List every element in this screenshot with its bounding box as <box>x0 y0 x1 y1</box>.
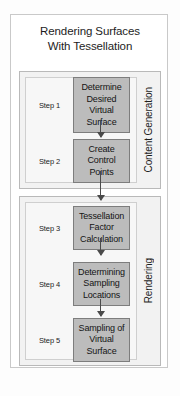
connector-arrow-step2-to-step3 <box>100 171 101 200</box>
step-4-text-line-3: Locations <box>76 290 127 302</box>
step-5-box[interactable]: Sampling of Virtual Surface <box>73 318 130 363</box>
step-4-box[interactable]: Determining Sampling Locations <box>73 262 130 307</box>
group-rendering-label: Rendering <box>139 201 157 361</box>
step-row-2: Step 2 Create Control Points <box>26 144 136 178</box>
step-3-label: Step 3 <box>26 224 73 233</box>
page-title: Rendering Surfaces With Tessellation <box>11 24 169 53</box>
step-2-box[interactable]: Create Control Points <box>73 139 130 184</box>
group-content-generation-label: Content Generation <box>139 76 157 184</box>
step-row-1: Step 1 Determine Desired Virtual Surface <box>26 83 136 127</box>
step-2-text-line-1: Create Control <box>76 144 127 167</box>
step-4-text-line-2: Sampling <box>76 278 127 290</box>
step-2-text-line-2: Points <box>76 167 127 179</box>
step-1-label: Step 1 <box>26 101 73 110</box>
step-1-text-line-3: Surface <box>76 117 127 129</box>
step-5-text-line-1: Sampling of <box>76 323 127 335</box>
step-4-text-line-1: Determining <box>76 267 127 279</box>
step-3-box[interactable]: Tessellation Factor Calculation <box>73 206 130 251</box>
step-row-4: Step 4 Determining Sampling Locations <box>26 262 136 306</box>
group-content-generation-inner-panel: Step 1 Determine Desired Virtual Surface… <box>25 77 137 183</box>
group-rendering-label-text: Rendering <box>143 258 154 303</box>
step-row-3: Step 3 Tessellation Factor Calculation <box>26 211 136 245</box>
group-rendering-inner-panel: Step 3 Tessellation Factor Calculation S… <box>25 202 137 360</box>
connector-arrow-step3-to-step4 <box>100 238 101 255</box>
diagram-canvas: Rendering Surfaces With Tessellation Ste… <box>0 0 180 396</box>
step-4-label: Step 4 <box>26 280 73 289</box>
step-row-5: Step 5 Sampling of Virtual Surface <box>26 323 136 357</box>
page-title-line-2: With Tessellation <box>11 39 169 54</box>
page-title-line-1: Rendering Surfaces <box>11 24 169 39</box>
step-5-text-line-2: Virtual Surface <box>76 334 127 357</box>
group-content-generation-label-text: Content Generation <box>143 87 154 172</box>
step-2-label: Step 2 <box>26 157 73 166</box>
step-3-text-line-1: Tessellation <box>76 211 127 223</box>
step-1-box[interactable]: Determine Desired Virtual Surface <box>73 77 130 133</box>
diagram-outer-frame: Rendering Surfaces With Tessellation Ste… <box>10 14 168 368</box>
step-3-text-line-2: Factor Calculation <box>76 222 127 245</box>
step-5-label: Step 5 <box>26 336 73 345</box>
step-1-text-line-1: Determine <box>76 82 127 94</box>
connector-arrow-step1-to-step2 <box>100 120 101 137</box>
group-rendering: Step 3 Tessellation Factor Calculation S… <box>19 196 161 366</box>
connector-arrow-step4-to-step5 <box>100 299 101 316</box>
group-content-generation: Step 1 Determine Desired Virtual Surface… <box>19 71 161 189</box>
step-1-text-line-2: Desired Virtual <box>76 94 127 117</box>
